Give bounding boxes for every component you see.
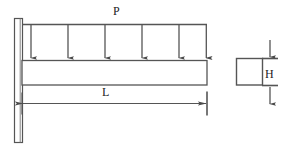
- height-label: H: [265, 68, 274, 80]
- load-label: P: [113, 5, 120, 17]
- cross-section-square: [237, 59, 263, 86]
- load-arrows: [31, 25, 206, 59]
- beam-body: [22, 61, 207, 86]
- length-dimension: [22, 92, 207, 116]
- fixed-support-wall: [15, 19, 23, 143]
- length-label: L: [102, 86, 109, 98]
- diagram-canvas: [0, 0, 285, 153]
- beam-diagram: P L H: [0, 0, 285, 153]
